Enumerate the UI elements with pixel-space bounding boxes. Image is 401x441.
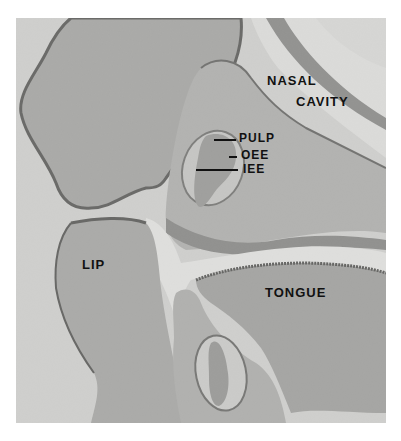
label-cavity: CAVITY: [296, 95, 349, 108]
pulp-leader-line: [214, 139, 236, 141]
histology-figure: NASAL CAVITY PULP OEE IEE LIP TONGUE: [16, 18, 386, 423]
label-oee: OEE: [241, 149, 269, 161]
label-lip: LIP: [82, 258, 105, 271]
label-nasal: NASAL: [267, 74, 317, 87]
label-iee: IEE: [243, 163, 265, 175]
tissue-section-drawing: [16, 18, 386, 423]
label-tongue: TONGUE: [265, 286, 326, 299]
label-pulp: PULP: [239, 132, 275, 144]
iee-leader-line: [196, 169, 238, 171]
oee-leader-line: [229, 156, 237, 158]
